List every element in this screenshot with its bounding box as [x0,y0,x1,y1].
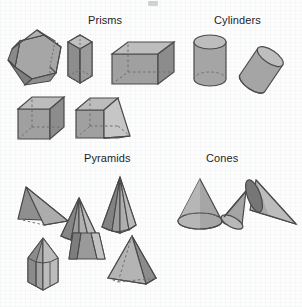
shape-oblique-cylinder [234,45,292,97]
group-label-pyramids: Pyramids [84,152,131,164]
group-label-cylinders: Cylinders [214,14,261,26]
shape-hexagonal-prism [6,29,68,91]
shape-hexagonal-pyramid [22,236,66,294]
group-label-cones: Cones [206,152,238,164]
shape-hexagonal-prism-upright [62,30,102,92]
group-label-prisms: Prisms [88,14,122,26]
shape-right-cylinder [190,33,232,91]
shape-cube [16,95,68,143]
page-artifact [148,1,158,6]
shape-cone-lying-on-side [246,174,300,232]
shape-rectangular-prism [110,40,178,90]
shape-pentagonal-pyramid-tall [96,175,140,237]
geometry-solids-figure: Prisms Cylinders Pyramids Cones [0,0,302,307]
shape-oblique-prism [74,94,136,144]
shape-square-pyramid [104,234,162,288]
